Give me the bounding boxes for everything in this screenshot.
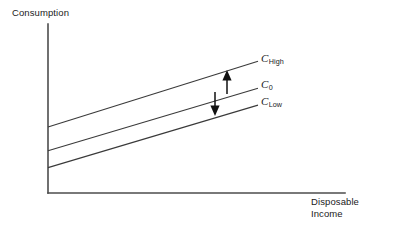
consumption-function-figure: Consumption Disposable Income CHigh C0 C… (0, 0, 394, 232)
curve-label-c-high-base: C (261, 52, 268, 64)
curve-label-c-zero-base: C (261, 78, 268, 90)
upward-shift-arrow (222, 70, 231, 94)
curve-label-c-zero-subscript: 0 (269, 83, 273, 92)
curve-label-c-zero: C0 (261, 79, 272, 91)
curve-label-c-high: CHigh (261, 53, 284, 65)
curve-label-c-low-subscript: Low (269, 100, 283, 109)
y-axis-label: Consumption (12, 7, 69, 19)
curve-c-zero (48, 88, 258, 151)
x-axis-label: Disposable Income (311, 196, 359, 219)
curve-label-c-high-subscript: High (269, 57, 284, 66)
curve-label-c-low-base: C (261, 95, 268, 107)
curve-c-low (48, 105, 258, 168)
curve-label-c-low: CLow (261, 96, 282, 108)
curve-c-high (48, 61, 258, 127)
downward-shift-arrow (210, 92, 219, 116)
